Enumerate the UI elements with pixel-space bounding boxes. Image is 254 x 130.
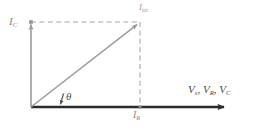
label-vr-symbol: V	[203, 83, 210, 95]
label-current-resistive: IR	[133, 110, 140, 120]
label-vs-symbol: V	[188, 83, 195, 95]
phasor-diagram: IC Itot IR θ Vs, VR, VC	[0, 0, 254, 130]
label-current-total: Itot	[139, 3, 148, 12]
angle-theta-arc	[61, 94, 64, 105]
label-ic-subscript: C	[13, 21, 18, 28]
label-current-capacitive: IC	[9, 16, 17, 27]
label-angle-theta: θ	[66, 91, 71, 102]
phasor-diagram-canvas	[0, 0, 254, 130]
phasor-itot-arrow	[31, 25, 137, 107]
label-ir-subscript: R	[136, 114, 140, 121]
label-vc-subscript: C	[226, 89, 231, 96]
label-itot-subscript: tot	[142, 7, 148, 13]
label-vs-subscript: s	[195, 89, 198, 96]
label-vr-subscript: R	[210, 89, 214, 96]
label-voltages: Vs, VR, VC	[188, 84, 231, 95]
